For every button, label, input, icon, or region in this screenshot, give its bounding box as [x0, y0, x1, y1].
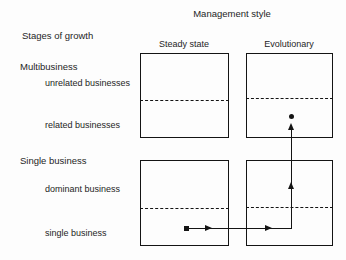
cell-divider: [140, 208, 229, 209]
row-label-unrelated-businesses: unrelated businesses: [45, 79, 130, 88]
diagram-title: Management style: [193, 9, 271, 19]
row-label-dominant-business: dominant business: [45, 185, 120, 194]
row-axis-title: Stages of growth: [22, 31, 93, 41]
cell-divider: [246, 207, 333, 208]
path-segment-horizontal: [188, 228, 291, 229]
path-end-marker: [289, 114, 294, 119]
row-label-single-business: single business: [45, 229, 107, 238]
cell-single-business-steady-state: [140, 160, 229, 246]
column-header-evolutionary: Evolutionary: [264, 40, 314, 49]
path-segment-vertical: [291, 129, 292, 229]
path-arrowhead-right-1: [205, 225, 212, 231]
row-group-label-single-business: Single business: [20, 156, 87, 166]
path-arrowhead-up-2: [288, 123, 294, 130]
row-group-label-multibusiness: Multibusiness: [20, 62, 78, 72]
path-arrowhead-up-1: [288, 182, 294, 189]
column-header-steady-state: Steady state: [159, 40, 209, 49]
cell-multibusiness-steady-state: [140, 53, 229, 138]
cell-divider: [246, 98, 333, 99]
diagram-canvas: Management style Stages of growth Steady…: [0, 0, 346, 260]
path-arrowhead-right-2: [265, 225, 272, 231]
cell-divider: [140, 100, 229, 101]
row-label-related-businesses: related businesses: [45, 121, 120, 130]
cell-single-business-evolutionary: [246, 160, 333, 246]
